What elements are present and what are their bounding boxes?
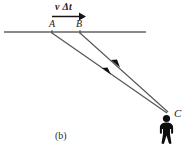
physics-figure-panel-b: v Δt A B C (b) — [0, 0, 185, 154]
point-a-label: A — [49, 19, 55, 29]
point-b-label: B — [76, 19, 82, 29]
light-ray-from-a — [52, 33, 167, 113]
figure-canvas — [0, 0, 185, 154]
light-ray-from-b — [80, 33, 168, 112]
observer-figure-icon — [160, 115, 173, 144]
velocity-displacement-label: v Δt — [55, 2, 72, 12]
observer-c-label: C — [174, 108, 181, 119]
panel-caption: (b) — [55, 131, 67, 141]
